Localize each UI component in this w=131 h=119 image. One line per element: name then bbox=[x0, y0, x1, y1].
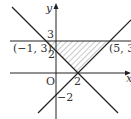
tick-label-yneg2: −2 bbox=[57, 91, 73, 104]
point-label-a: (−1, 3) bbox=[13, 42, 52, 55]
coordinate-diagram: y x 3 2 −2 2 O (−1, 3) (5, 3) bbox=[0, 0, 131, 119]
y-axis-arrow-icon bbox=[54, 3, 59, 9]
tick-label-y3: 3 bbox=[47, 28, 54, 41]
y-axis-label: y bbox=[45, 2, 53, 15]
tick-label-x2: 2 bbox=[74, 75, 81, 88]
origin-label: O bbox=[46, 75, 55, 88]
x-axis-label: x bbox=[126, 72, 131, 85]
point-label-b: (5, 3) bbox=[109, 42, 131, 55]
